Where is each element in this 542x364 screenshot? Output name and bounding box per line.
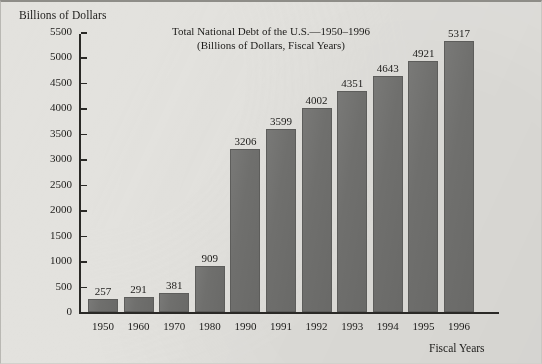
bar [195, 266, 225, 312]
bar-value-label: 3206 [222, 135, 268, 147]
y-axis-tick-mark [81, 185, 87, 187]
bar-value-label: 4351 [329, 77, 375, 89]
bar-group: 43511993 [337, 32, 367, 312]
bar-value-label: 4921 [400, 47, 446, 59]
bar-value-label: 4002 [294, 94, 340, 106]
bar-group: 53171996 [444, 32, 474, 312]
bar-group: 2571950 [88, 32, 118, 312]
y-axis-caption: Billions of Dollars [19, 9, 107, 21]
bar-group: 2911960 [124, 32, 154, 312]
x-axis-line [79, 312, 499, 314]
bar [337, 91, 367, 313]
bar-group: 9091980 [195, 32, 225, 312]
bar [88, 299, 118, 312]
y-axis-tick-label: 3500 [50, 127, 72, 139]
y-axis-tick-mark [81, 236, 87, 238]
y-axis-tick-label: 1500 [50, 229, 72, 241]
bar-group: 40021992 [302, 32, 332, 312]
chart-figure: Billions of Dollars Total National Debt … [0, 0, 542, 364]
bar [230, 149, 260, 312]
bar [373, 76, 403, 312]
bar-value-label: 3599 [258, 115, 304, 127]
y-axis-tick-mark [81, 312, 87, 314]
x-axis-caption: Fiscal Years [429, 342, 485, 354]
y-axis-line [79, 34, 81, 314]
bar [124, 297, 154, 312]
bar-value-label: 909 [187, 252, 233, 264]
y-axis-tick-label: 5500 [50, 25, 72, 37]
y-axis-tick-label: 1000 [50, 254, 72, 266]
bar [159, 293, 189, 312]
bar-group: 3811970 [159, 32, 189, 312]
bar-value-label: 5317 [436, 27, 482, 39]
y-axis-tick-label: 4000 [50, 101, 72, 113]
y-axis-tick-mark [81, 210, 87, 212]
bar [266, 129, 296, 312]
y-axis-tick-mark [81, 83, 87, 85]
bar [444, 41, 474, 312]
bar-group: 32061990 [230, 32, 260, 312]
y-axis-tick-mark [81, 261, 87, 263]
bar-value-label: 381 [151, 279, 197, 291]
y-axis-tick-label: 2500 [50, 178, 72, 190]
bar-group: 46431994 [373, 32, 403, 312]
y-axis-tick-mark [81, 159, 87, 161]
y-axis-tick-mark [81, 108, 87, 110]
bar-group: 49211995 [408, 32, 438, 312]
y-axis-tick-mark [81, 134, 87, 136]
plot-area: 0500100015002000250030003500400045005000… [79, 32, 499, 314]
bar [408, 61, 438, 312]
y-axis-tick-mark [81, 57, 87, 59]
bar-group: 35991991 [266, 32, 296, 312]
y-axis-tick-label: 4500 [50, 76, 72, 88]
y-axis-tick-label: 500 [56, 280, 73, 292]
y-axis-tick-label: 2000 [50, 203, 72, 215]
x-axis-tick-label: 1996 [436, 320, 482, 332]
bar [302, 108, 332, 312]
y-axis-tick-mark [81, 32, 87, 34]
y-axis-tick-label: 3000 [50, 152, 72, 164]
y-axis-tick-label: 0 [67, 305, 73, 317]
y-axis-tick-label: 5000 [50, 50, 72, 62]
bar-value-label: 4643 [365, 62, 411, 74]
